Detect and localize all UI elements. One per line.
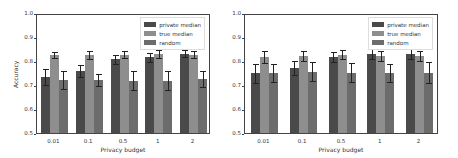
bar-true-median [260, 57, 269, 133]
y-tick-label: 0.6 [227, 106, 241, 112]
error-cap [61, 89, 67, 90]
error-bar [133, 71, 134, 90]
error-cap [331, 52, 337, 53]
error-cap [165, 71, 171, 72]
legend-swatch [372, 22, 384, 27]
error-cap [191, 58, 197, 59]
error-bar [390, 64, 391, 82]
error-cap [417, 51, 423, 52]
y-tick-label: 1.0 [227, 10, 241, 16]
y-tick-label: 0.8 [19, 58, 33, 64]
error-bar [89, 51, 90, 59]
x-tick-label: 0.1 [76, 138, 100, 144]
y-tick-label: 0.9 [227, 34, 241, 40]
y-tick-label: 0.5 [19, 130, 33, 136]
error-cap [271, 64, 277, 65]
error-cap [349, 82, 355, 83]
error-bar [168, 71, 169, 90]
plot-area: private mediantrue medianrandom [244, 14, 438, 134]
bar-private-median [290, 68, 299, 133]
y-tick-mark [34, 134, 36, 135]
error-cap [292, 61, 298, 62]
legend-swatch [372, 31, 384, 36]
error-cap [200, 87, 206, 88]
y-tick-label: 1.0 [19, 10, 33, 16]
error-cap [271, 82, 277, 83]
error-bar [303, 51, 304, 62]
bar-true-median [189, 55, 198, 133]
bar-random [94, 80, 103, 133]
legend-item: private median [372, 20, 429, 29]
error-cap [165, 90, 171, 91]
error-bar [45, 69, 46, 86]
x-tick-label: 0.5 [329, 138, 353, 144]
error-cap [340, 59, 346, 60]
error-cap [301, 61, 307, 62]
error-cap [378, 51, 384, 52]
error-bar [429, 62, 430, 84]
legend-label: private median [159, 22, 201, 28]
bar-true-median [85, 55, 94, 133]
error-cap [200, 71, 206, 72]
error-cap [87, 51, 93, 52]
y-tick-label: 0.8 [227, 58, 241, 64]
chart-left: 0.50.60.70.80.91.0Accuracyprivate median… [0, 0, 229, 158]
error-cap [262, 51, 268, 52]
error-bar [312, 62, 313, 81]
error-bar [420, 51, 421, 61]
legend-label: random [159, 40, 180, 46]
bar-private-median [180, 54, 189, 133]
error-cap [378, 61, 384, 62]
error-cap [387, 64, 393, 65]
x-tick-label: 1 [368, 138, 392, 144]
error-cap [96, 74, 102, 75]
y-tick-mark [242, 134, 244, 135]
legend-item: true median [144, 29, 201, 38]
bar-private-median [406, 54, 415, 133]
error-cap [310, 81, 316, 82]
error-cap [96, 86, 102, 87]
legend-swatch [144, 40, 156, 45]
x-tick-label: 0.01 [251, 138, 275, 144]
legend-swatch [144, 31, 156, 36]
error-cap [387, 82, 393, 83]
error-cap [369, 59, 375, 60]
error-cap [310, 62, 316, 63]
bar-true-median [120, 55, 129, 133]
error-bar [342, 50, 343, 60]
y-axis-label: Accuracy [12, 61, 19, 88]
error-bar [333, 52, 334, 63]
error-bar [255, 64, 256, 83]
error-cap [87, 59, 93, 60]
x-axis-label: Privacy budget [244, 146, 438, 153]
error-bar [150, 53, 151, 62]
error-bar [294, 61, 295, 75]
error-cap [131, 90, 137, 91]
legend-item: random [372, 38, 429, 47]
legend-label: true median [387, 31, 421, 37]
legend-swatch [372, 40, 384, 45]
error-cap [301, 51, 307, 52]
error-bar [351, 63, 352, 82]
x-tick-label: 2 [181, 138, 205, 144]
error-cap [147, 62, 153, 63]
bar-private-median [111, 59, 120, 133]
error-bar [264, 51, 265, 63]
bar-true-median [154, 54, 163, 133]
x-tick-label: 0.5 [111, 138, 135, 144]
error-cap [292, 75, 298, 76]
error-cap [113, 64, 119, 65]
error-cap [349, 63, 355, 64]
x-tick-label: 0.01 [41, 138, 65, 144]
bar-true-median [376, 56, 385, 133]
x-tick-label: 2 [407, 138, 431, 144]
error-cap [147, 53, 153, 54]
bar-private-median [145, 57, 154, 133]
x-tick-label: 0.1 [290, 138, 314, 144]
y-tick-label: 0.7 [227, 82, 241, 88]
error-cap [262, 63, 268, 64]
bar-true-median [415, 56, 424, 133]
legend-swatch [144, 22, 156, 27]
error-cap [417, 61, 423, 62]
error-cap [253, 64, 259, 65]
